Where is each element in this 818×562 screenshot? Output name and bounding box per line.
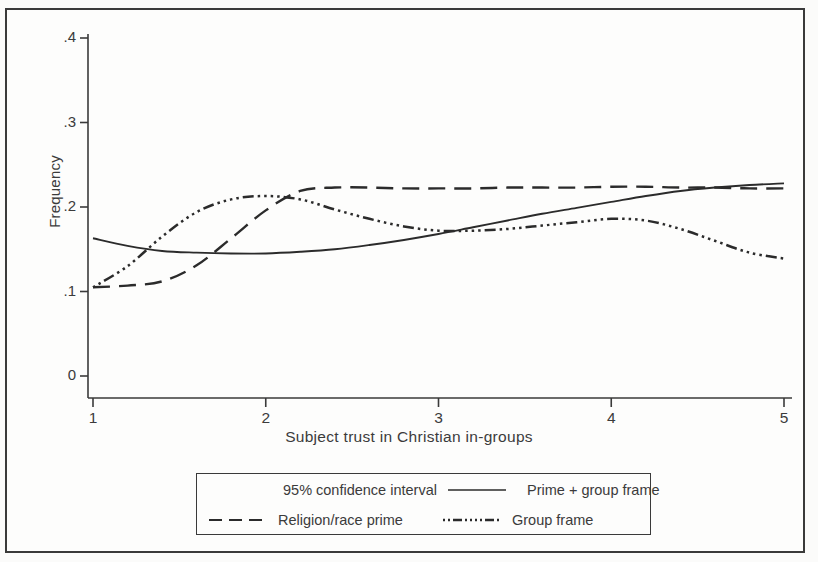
y-tick-label: .3	[36, 113, 76, 130]
legend-item-ci: 95% confidence interval	[283, 482, 508, 498]
legend-key-solid-thin	[446, 484, 508, 496]
legend-label-ci: 95% confidence interval	[283, 482, 437, 498]
x-axis-ticks	[93, 398, 784, 407]
legend-item-prime-group-frame: Prime + group frame	[527, 482, 660, 498]
x-tick-label: 3	[419, 409, 459, 427]
data-curves	[93, 183, 784, 287]
legend-label-religion-race-prime: Religion/race prime	[278, 512, 403, 528]
series-line-group-frame	[93, 196, 784, 287]
y-tick-label: .1	[36, 282, 76, 299]
x-tick-label: 5	[764, 409, 804, 427]
series-line-prime-group-frame	[93, 183, 784, 253]
x-tick-label: 1	[73, 409, 113, 427]
chart-legend: 95% confidence interval Prime + group fr…	[196, 473, 651, 535]
legend-item-religion-race-prime: Religion/race prime	[207, 512, 403, 528]
legend-item-group-frame: Group frame	[441, 512, 593, 528]
chart-figure: 0.1.2.3.4 12345 Frequency Subject trust …	[0, 0, 818, 562]
legend-key-dash-dot-dot	[441, 514, 503, 526]
legend-label-group-frame: Group frame	[512, 512, 593, 528]
legend-row-1: 95% confidence interval Prime + group fr…	[197, 474, 652, 505]
legend-key-dashed	[207, 514, 269, 526]
y-tick-label: 0	[36, 366, 76, 383]
y-axis-title: Frequency	[46, 132, 63, 252]
legend-label-prime-group-frame: Prime + group frame	[527, 482, 660, 498]
y-axis-ticks	[80, 38, 88, 376]
x-axis-title: Subject trust in Christian in-groups	[0, 428, 818, 446]
series-line-religion-race-prime	[93, 187, 784, 288]
legend-row-2: Religion/race prime Group frame	[197, 504, 652, 535]
x-tick-label: 2	[246, 409, 286, 427]
x-tick-label: 4	[591, 409, 631, 427]
y-tick-label: .4	[36, 28, 76, 45]
